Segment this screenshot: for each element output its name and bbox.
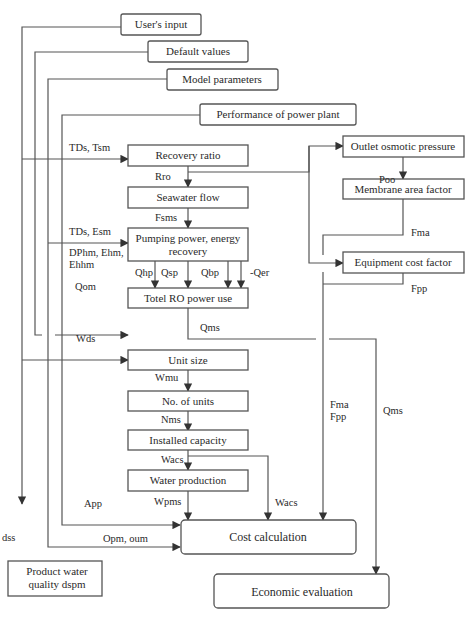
label-poo: Poo [379, 174, 395, 185]
box-water-production: Water production [128, 470, 248, 491]
box-membrane-area: Membrane area factor [343, 179, 464, 199]
label-qhp: Qhp [135, 267, 153, 278]
box-total-ro-power: Totel RO power use [128, 288, 248, 308]
label-fma: Fma [411, 227, 430, 238]
label-wds: Wds [76, 333, 95, 344]
label-qer: -Qer [250, 267, 270, 278]
label-fma-2: Fma [330, 399, 349, 410]
input-users: User's input [121, 14, 201, 35]
box-recovery-ratio: Recovery ratio [128, 145, 248, 166]
svg-text:Totel RO power use: Totel RO power use [144, 292, 232, 304]
power-plant-label: Performance of power plant [216, 108, 339, 120]
label-wmu: Wmu [155, 372, 179, 383]
label-fpp-2: Fpp [330, 411, 346, 422]
svg-text:Recovery ratio: Recovery ratio [155, 149, 221, 161]
users-input-label: User's input [135, 18, 187, 30]
input-default-values: Default values [148, 41, 248, 62]
label-nms: Nms [161, 414, 181, 425]
input-power-plant: Performance of power plant [200, 104, 356, 125]
label-qsp: Qsp [161, 267, 178, 278]
label-tds-esm: TDs, Esm [69, 226, 111, 237]
model-parameters-label: Model parameters [182, 73, 262, 85]
box-economic-evaluation: Economic evaluation [214, 574, 389, 608]
label-tds-tsm: TDs, Tsm [69, 142, 110, 153]
box-unit-size: Unit size [128, 350, 248, 370]
input-model-parameters: Model parameters [167, 69, 278, 90]
label-wpms: Wpms [154, 496, 181, 507]
label-qom: Qom [75, 281, 96, 292]
svg-text:Membrane area factor: Membrane area factor [354, 183, 451, 195]
box-product-water: Product water quality dspm [8, 561, 102, 596]
label-dss: dss [2, 532, 15, 543]
svg-text:Economic evaluation: Economic evaluation [251, 585, 353, 599]
svg-text:Product water: Product water [26, 565, 88, 577]
label-wacs-2: Wacs [275, 497, 297, 508]
box-no-of-units: No. of units [128, 391, 248, 411]
default-values-label: Default values [166, 45, 230, 57]
svg-text:Cost calculation: Cost calculation [229, 530, 307, 544]
label-dphm: DPhm, Ehm, [69, 247, 124, 258]
svg-text:No. of units: No. of units [162, 395, 214, 407]
svg-text:Unit size: Unit size [168, 354, 208, 366]
svg-text:Seawater flow: Seawater flow [156, 191, 219, 203]
label-rro: Rro [155, 171, 171, 182]
box-seawater-flow: Seawater flow [128, 187, 248, 208]
svg-text:Pumping power, energy: Pumping power, energy [136, 232, 241, 244]
label-ehhm: Ehhm [69, 259, 94, 270]
label-qms-2: Qms [383, 405, 403, 416]
svg-text:quality dspm: quality dspm [28, 578, 86, 590]
svg-text:Water production: Water production [150, 474, 227, 486]
label-fsms: Fsms [155, 212, 177, 223]
svg-text:recovery: recovery [169, 245, 208, 257]
box-outlet-osmotic: Outlet osmotic pressure [343, 136, 464, 157]
label-wacs-1: Wacs [161, 454, 183, 465]
svg-text:Equipment cost factor: Equipment cost factor [354, 256, 451, 268]
label-qbp: Qbp [201, 267, 219, 278]
box-equipment-cost: Equipment cost factor [343, 252, 464, 273]
ro-cost-flowchart: User's input Default values Model parame… [0, 0, 473, 618]
box-cost-calculation: Cost calculation [181, 520, 356, 554]
svg-text:Installed capacity: Installed capacity [149, 434, 227, 446]
label-app: App [84, 498, 102, 509]
label-opm-oum: Opm, oum [103, 533, 148, 544]
box-installed-capacity: Installed capacity [128, 430, 248, 450]
box-pumping-power: Pumping power, energy recovery [128, 228, 248, 261]
label-qms-1: Qms [200, 322, 220, 333]
svg-text:Outlet osmotic pressure: Outlet osmotic pressure [351, 140, 456, 152]
label-fpp: Fpp [411, 283, 427, 294]
